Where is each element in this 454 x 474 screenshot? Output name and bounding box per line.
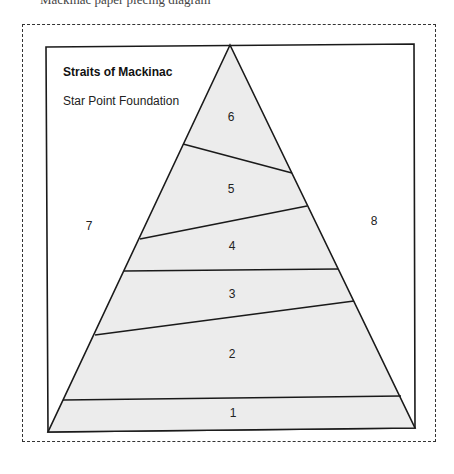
section-label-6: 6	[228, 110, 235, 124]
section-label-8: 8	[371, 214, 378, 228]
section-label-4: 4	[229, 239, 236, 253]
diagram-title: Straits of Mackinac	[63, 65, 172, 79]
section-label-3: 3	[229, 287, 236, 301]
section-label-1: 1	[230, 406, 237, 420]
section-label-5: 5	[228, 182, 235, 196]
section-label-7: 7	[86, 219, 93, 233]
diagram-subtitle: Star Point Foundation	[63, 94, 179, 108]
section-label-2: 2	[229, 347, 236, 361]
